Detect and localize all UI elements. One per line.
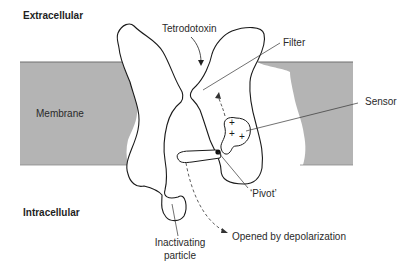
tetrodotoxin-arrow xyxy=(191,37,201,62)
sensor-label: Sensor xyxy=(365,96,397,107)
opened-by-depolarization-label: Opened by depolarization xyxy=(232,231,346,242)
gate-arm xyxy=(177,150,221,163)
inactivating-particle-label: Inactivating particle xyxy=(152,237,208,261)
inactivating-line-2: particle xyxy=(152,250,208,261)
charge-plus-2: + xyxy=(229,128,235,139)
depolarization-arrow xyxy=(186,163,224,231)
charge-plus-3: + xyxy=(239,131,245,142)
diagram-graphics: + + + xyxy=(0,0,417,273)
tetrodotoxin-arrowhead xyxy=(198,60,204,66)
intracellular-label: Intracellular xyxy=(23,207,80,218)
pivot-label: ‘Pivot’ xyxy=(250,188,277,199)
charge-plus-1: + xyxy=(229,117,235,128)
membrane-label: Membrane xyxy=(36,108,84,119)
tetrodotoxin-label: Tetrodotoxin xyxy=(162,23,216,34)
filter-label: Filter xyxy=(283,37,305,48)
membrane-right xyxy=(258,62,353,165)
extracellular-label: Extracellular xyxy=(23,10,83,21)
sodium-channel-diagram: + + + Extracellular Membrane Intracellul… xyxy=(0,0,417,273)
depolarization-arrowhead xyxy=(221,228,228,233)
inactivating-line-1: Inactivating xyxy=(152,237,208,248)
